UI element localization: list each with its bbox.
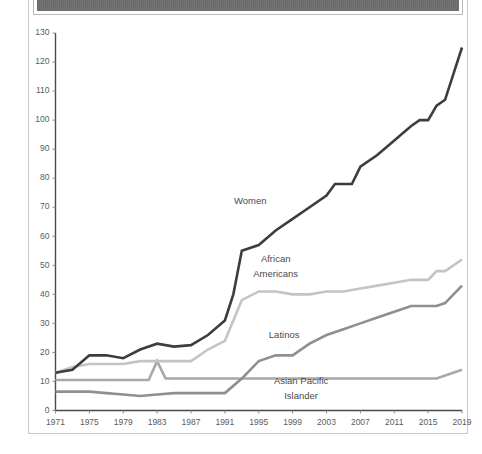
x-tick-label: 2019 <box>453 417 472 427</box>
y-tick-label: 40 <box>40 289 50 299</box>
y-tick-label: 100 <box>35 114 49 124</box>
y-tick-label: 110 <box>36 85 50 95</box>
y-tick-label: 70 <box>40 201 50 211</box>
series-label: Women <box>234 195 267 206</box>
y-tick-label: 20 <box>40 347 50 357</box>
x-tick-label: 1987 <box>182 417 201 427</box>
x-tick-label: 1999 <box>283 417 302 427</box>
x-tick-label: 1979 <box>114 417 133 427</box>
y-tick-label: 10 <box>40 376 50 386</box>
line-chart: 0102030405060708090100110120130197119751… <box>0 0 482 454</box>
x-tick-label: 2015 <box>419 417 438 427</box>
x-tick-label: 1975 <box>80 417 99 427</box>
chart-plot-area: 0102030405060708090100110120130197119751… <box>0 0 482 454</box>
x-tick-label: 1995 <box>249 417 268 427</box>
y-tick-label: 50 <box>40 260 50 270</box>
series-label: Asian Pacific <box>274 375 329 386</box>
y-tick-label: 90 <box>40 143 50 153</box>
y-tick-label: 30 <box>40 318 50 328</box>
series-label: Americans <box>253 268 298 279</box>
x-tick-label: 1991 <box>215 417 234 427</box>
y-tick-label: 130 <box>35 27 49 37</box>
series-line-women <box>56 48 463 373</box>
y-tick-label: 0 <box>45 405 50 415</box>
series-label: African <box>261 253 291 264</box>
x-tick-label: 2011 <box>385 417 404 427</box>
x-tick-label: 2003 <box>317 417 336 427</box>
x-tick-label: 2007 <box>351 417 370 427</box>
series-label: Latinos <box>269 329 300 340</box>
x-tick-label: 1983 <box>148 417 167 427</box>
series-label: Islander <box>284 390 318 401</box>
page-root: 0102030405060708090100110120130197119751… <box>0 0 482 454</box>
y-tick-label: 80 <box>40 172 50 182</box>
y-tick-label: 120 <box>35 56 49 66</box>
x-tick-label: 1971 <box>46 417 65 427</box>
y-tick-label: 60 <box>40 231 50 241</box>
